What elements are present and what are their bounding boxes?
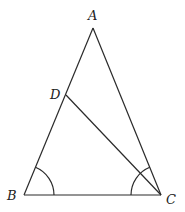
segment-dc [66, 95, 161, 195]
segment-ab [24, 28, 93, 195]
angle-arc-c [131, 167, 150, 195]
triangle-diagram: A B C D [0, 0, 185, 212]
label-c: C [166, 192, 176, 207]
angle-arc-b [36, 167, 55, 195]
label-b: B [6, 188, 17, 203]
segment-ac [93, 28, 161, 195]
label-d: D [49, 87, 61, 102]
label-a: A [87, 8, 97, 23]
